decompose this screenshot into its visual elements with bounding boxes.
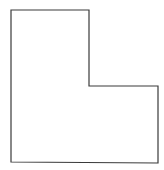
l-shaped-polygon: [11, 10, 158, 163]
diagram-canvas: [0, 0, 164, 170]
l-shape-diagram: [0, 0, 164, 170]
